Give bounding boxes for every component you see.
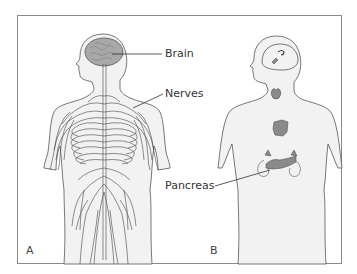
nerves-label: Nerves xyxy=(165,88,204,99)
panel-b-body xyxy=(218,36,342,264)
pancreas-label: Pancreas xyxy=(165,180,214,191)
panel-a-body xyxy=(44,34,170,264)
brain-icon xyxy=(85,38,123,66)
panel-a-letter: A xyxy=(26,245,34,256)
brain-label: Brain xyxy=(165,48,194,59)
panel-b-letter: B xyxy=(210,245,218,256)
anatomy-illustration xyxy=(0,0,357,274)
